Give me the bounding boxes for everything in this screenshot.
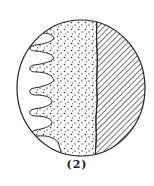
stippled-region: [30, 10, 98, 165]
figure-caption: (2): [0, 158, 154, 171]
